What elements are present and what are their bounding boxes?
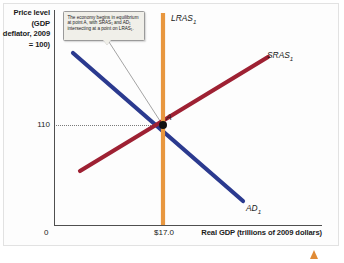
equilibrium-point-label: A <box>166 112 172 122</box>
sras-label-subscript: 1 <box>290 55 293 62</box>
ad-label-subscript: 1 <box>258 208 261 215</box>
lras-label-text: LRAS <box>171 13 193 23</box>
sras1-curve-label: SRAS1 <box>267 50 293 62</box>
callout-tail <box>103 40 111 45</box>
callout-leader-line <box>109 42 162 124</box>
curves-layer <box>0 0 344 263</box>
lras-label-subscript: 1 <box>193 18 196 25</box>
sras-label-text: SRAS <box>267 50 290 60</box>
callout-text: The economy begins in equilibrium at poi… <box>68 15 139 31</box>
sras1-curve <box>80 57 268 171</box>
figure-root: Price level (GDP deflator, 2009 = 100) R… <box>0 0 344 263</box>
bottom-pointer-triangle <box>310 250 318 259</box>
equilibrium-point-dot <box>159 121 167 129</box>
ad-label-text: AD <box>246 203 258 213</box>
lras1-curve-label: LRAS1 <box>171 13 196 25</box>
ad1-curve-label: AD1 <box>246 203 261 215</box>
callout-box: The economy begins in equilibrium at poi… <box>63 11 145 41</box>
ad1-curve <box>73 53 243 201</box>
